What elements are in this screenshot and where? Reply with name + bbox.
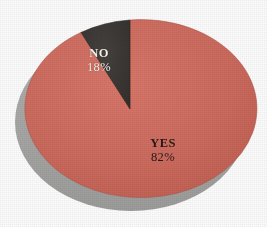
pie-chart-figure: NO 18% YES 82% — [0, 0, 267, 227]
pie-label-yes-value: 82% — [131, 150, 195, 164]
pie-label-no-name: NO — [68, 46, 130, 60]
pie-slice-yes — [25, 20, 257, 198]
pie-label-yes: YES 82% — [131, 136, 195, 164]
pie-chart-canvas — [0, 0, 267, 227]
pie-label-yes-name: YES — [131, 136, 195, 150]
pie-label-no-value: 18% — [68, 60, 130, 74]
pie-label-no: NO 18% — [68, 46, 130, 74]
